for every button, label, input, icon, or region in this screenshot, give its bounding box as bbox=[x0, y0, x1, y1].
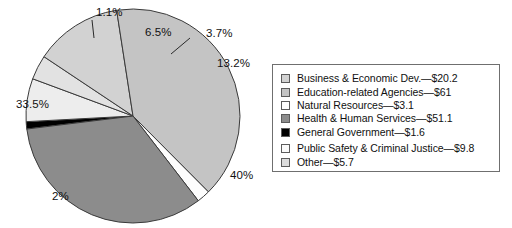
legend-item-other: Other—$5.7 bbox=[281, 155, 493, 168]
pie-label-natural-resources: 2% bbox=[52, 190, 69, 202]
legend-swatch-icon bbox=[281, 158, 290, 167]
legend-swatch-icon bbox=[281, 88, 290, 97]
legend-swatch-icon bbox=[281, 114, 290, 123]
legend-swatch-icon bbox=[281, 144, 290, 153]
legend-item-natural-resources: Natural Resources—$3.1 bbox=[281, 99, 493, 112]
legend-label: Natural Resources—$3.1 bbox=[297, 99, 414, 112]
pie-label-public-safety: 6.5% bbox=[145, 26, 172, 38]
legend-item-education-related-agencies: Education-related Agencies—$61 bbox=[281, 85, 493, 98]
pie-label-health-human-services: 33.5% bbox=[16, 98, 49, 110]
legend-label: Public Safety & Criminal Justice—$9.8 bbox=[297, 142, 474, 155]
pie-label-general-government: 1.1% bbox=[96, 6, 123, 18]
legend-swatch-icon bbox=[281, 128, 290, 137]
legend-label: Business & Economic Dev.—$20.2 bbox=[297, 72, 458, 85]
legend-swatch-icon bbox=[281, 101, 290, 110]
pie-label-other: 3.7% bbox=[206, 27, 233, 39]
legend-item-public-safety-criminal-justice: Public Safety & Criminal Justice—$9.8 bbox=[281, 142, 493, 155]
legend: Business & Economic Dev.—$20.2 Education… bbox=[272, 64, 500, 172]
legend-label: General Government—$1.6 bbox=[297, 126, 425, 139]
legend-label: Other—$5.7 bbox=[297, 156, 354, 169]
legend-item-general-government: General Government—$1.6 bbox=[281, 126, 493, 139]
pie-label-business-economic-dev: 13.2% bbox=[217, 57, 250, 69]
pie-chart-area: 1.1% 6.5% 3.7% 13.2% 40% 2% 33.5% bbox=[14, 4, 266, 228]
legend-label: Education-related Agencies—$61 bbox=[297, 86, 451, 99]
legend-item-health-human-services: Health & Human Services—$51.1 bbox=[281, 112, 493, 125]
pie-chart-figure: 1.1% 6.5% 3.7% 13.2% 40% 2% 33.5% Busine… bbox=[0, 0, 512, 228]
legend-item-business-economic-dev: Business & Economic Dev.—$20.2 bbox=[281, 72, 493, 85]
pie-label-education-related-agencies: 40% bbox=[230, 169, 253, 181]
legend-swatch-icon bbox=[281, 74, 290, 83]
legend-label: Health & Human Services—$51.1 bbox=[297, 112, 453, 125]
